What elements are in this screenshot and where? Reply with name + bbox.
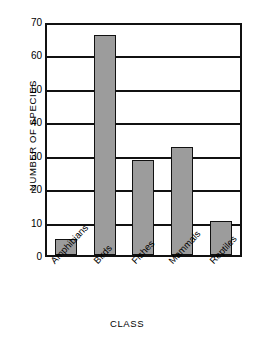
y-tick-label: 20 [12, 185, 42, 195]
y-tick-label: 30 [12, 152, 42, 162]
bar-chart-figure: NUMBER OF SPECIES 70 60 50 40 30 20 10 0… [0, 0, 254, 345]
plot-area [45, 23, 242, 257]
y-axis-tick-labels: 70 60 50 40 30 20 10 0 [12, 23, 42, 257]
y-tick-label: 50 [12, 85, 42, 95]
y-tick-label: 10 [12, 219, 42, 229]
x-axis-title: CLASS [0, 318, 254, 329]
bars-layer [47, 25, 240, 255]
y-tick-label: 60 [12, 51, 42, 61]
bar-birds [94, 35, 116, 255]
y-tick-label: 0 [12, 252, 42, 262]
y-tick-label: 40 [12, 118, 42, 128]
x-axis-tick-labels: Amphibians Birds Fishes Mammals Reptiles [45, 259, 242, 317]
y-tick-label: 70 [12, 18, 42, 28]
